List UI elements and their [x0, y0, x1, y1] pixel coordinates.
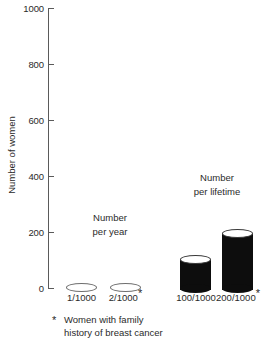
category-label-2-per-1000: 2/1000* — [100, 292, 151, 303]
footnote-asterisk: * — [52, 314, 56, 327]
annotation-number-per-year-line1: Number — [65, 211, 155, 225]
category-label-1-per-1000-text: 1/1000 — [67, 292, 96, 303]
category-label-200-per-1000-text: 200/1000 — [216, 292, 256, 303]
footnote-line2: history of breast cancer — [52, 326, 252, 339]
annotation-number-per-lifetime: Number per lifetime — [170, 171, 264, 198]
annotation-number-per-year-line2: per year — [65, 225, 155, 239]
footnote-line1: Women with family — [52, 313, 252, 326]
y-tick-400 — [48, 176, 54, 177]
annotation-number-per-lifetime-line1: Number — [170, 171, 264, 185]
bar-2-per-1000-disc — [110, 283, 141, 292]
footnote: * Women with family history of breast ca… — [52, 313, 252, 339]
category-label-2-per-1000-asterisk: * — [138, 287, 142, 299]
y-tick-1000 — [48, 8, 54, 9]
y-tick-label-800: 800 — [0, 60, 44, 70]
y-tick-600 — [48, 120, 54, 121]
y-tick-200 — [48, 232, 54, 233]
y-tick-label-200: 200 — [0, 228, 44, 238]
annotation-number-per-lifetime-line2: per lifetime — [170, 185, 264, 199]
annotation-number-per-year: Number per year — [65, 211, 155, 238]
chart-figure: 1000 800 600 400 200 0 Number of women N… — [0, 0, 278, 343]
bar-200-per-1000-body — [222, 234, 253, 290]
y-tick-label-1000: 1000 — [0, 4, 44, 14]
y-tick-800 — [48, 64, 54, 65]
bar-200-per-1000-cap — [222, 229, 253, 238]
category-label-200-per-1000-asterisk: * — [256, 287, 260, 299]
y-axis-title: Number of women — [7, 110, 17, 200]
y-tick-label-0: 0 — [0, 284, 44, 294]
bar-100-per-1000-cap — [180, 255, 211, 264]
bar-1-per-1000-disc — [66, 283, 97, 292]
y-axis-line — [48, 8, 49, 289]
category-label-200-per-1000: 200/1000* — [208, 292, 268, 303]
y-tick-0 — [48, 288, 54, 289]
category-label-2-per-1000-text: 2/1000 — [109, 292, 138, 303]
